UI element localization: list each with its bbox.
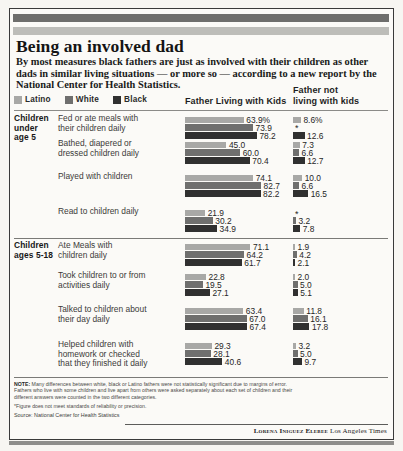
bar-white [185, 315, 247, 321]
bar-black [293, 157, 305, 163]
row-label: Played with children [58, 172, 184, 182]
column-header-not-living-line1: Father not [293, 85, 359, 96]
bar-latino [185, 210, 205, 216]
bar-latino [185, 142, 226, 148]
bar-value-label: 67.4 [250, 324, 266, 330]
row-label: Took children to or fromactivities daily [58, 271, 184, 290]
legend-item-latino: Latino [14, 95, 51, 104]
row-label: Fed or ate meals withtheir children dail… [58, 114, 184, 133]
bar-latino [293, 343, 296, 349]
masthead-dark-bar [13, 14, 389, 22]
row-label-line-2: that they finished it daily [58, 359, 184, 369]
bar-black [293, 225, 300, 231]
bar-black [185, 157, 250, 163]
group-label-1: Childrenages 5-18 [14, 241, 53, 260]
row-label-line-1: children daily [58, 251, 184, 261]
bar-asterisk: * [295, 125, 299, 131]
row-label: Read to children daily [58, 207, 184, 217]
bar-white [185, 149, 240, 155]
row-label-line-1: their day daily [58, 315, 184, 325]
bar-latino [185, 308, 243, 314]
divider-top [14, 110, 388, 111]
bar-value-label: 34.9 [220, 226, 236, 232]
column-header-not-living-with-kids: Father not living with kids [293, 85, 359, 106]
bar-value-label: 27.1 [212, 290, 228, 296]
bar-latino [293, 274, 295, 280]
credit-org: Los Angeles Times [330, 427, 387, 435]
bar-value-label: 70.4 [252, 158, 268, 164]
legend-label-black: Black [124, 95, 147, 104]
note-label: NOTE: [14, 381, 30, 387]
source-line: Source: National Center for Health Stati… [14, 412, 119, 418]
page-title: Being an involved dad [16, 36, 184, 57]
bar-black [185, 358, 222, 364]
bar-latino [293, 244, 295, 250]
divider-credit [125, 424, 388, 425]
row-label-line-1: their children daily [58, 124, 184, 134]
divider-note [14, 377, 388, 378]
legend-label-white: White [76, 95, 99, 104]
bar-value-label: 40.6 [225, 359, 241, 365]
bar-white [293, 251, 297, 257]
bar-black [185, 132, 257, 138]
divider-groups [14, 238, 388, 239]
row-label-line-0: Played with children [58, 172, 184, 182]
bar-value-label: 12.6 [307, 133, 323, 139]
column-header-not-living-line2: living with kids [293, 96, 359, 107]
bar-black [293, 323, 309, 329]
bar-value-label: 9.7 [304, 359, 316, 365]
bar-value-label: 61.7 [244, 260, 260, 266]
bar-value-label: 5.1 [300, 290, 312, 296]
group-label-line-2: age 5 [14, 133, 49, 143]
bar-value-label: 12.7 [307, 158, 323, 164]
note-block: NOTE: Many differences between white, bl… [14, 381, 386, 400]
bar-white [185, 182, 261, 188]
row-label: Helped children withhomework or checkedt… [58, 340, 184, 369]
group-label-0: Childrenunderage 5 [14, 114, 49, 143]
bar-value-label: 2.1 [298, 260, 310, 266]
bar-latino [185, 175, 253, 181]
bar-value-label: 8.6% [303, 117, 322, 123]
bar-black [293, 190, 308, 196]
row-label: Ate Meals withchildren daily [58, 241, 184, 260]
bar-latino [185, 117, 244, 123]
bar-white [185, 350, 211, 356]
bar-value-label: 78.2 [259, 133, 275, 139]
infographic-page: Being an involved dad By most measures b… [0, 0, 403, 451]
bar-black [185, 289, 210, 295]
note-line-3: different answers were counted in the tw… [14, 394, 386, 400]
footnote-star: *Figure does not meet standards of relia… [14, 403, 146, 409]
credit-line: Lorena Iniguez Elebee Los Angeles Times [254, 427, 387, 435]
bottom-edge-bar [9, 441, 394, 445]
bar-black [293, 358, 302, 364]
bar-latino [185, 343, 212, 349]
note-text-1: Many differences between white, black or… [32, 381, 287, 387]
bar-latino [293, 117, 301, 123]
legend-item-black: Black [113, 95, 147, 104]
legend-swatch-white-icon [65, 96, 73, 104]
bar-black [293, 259, 295, 265]
bar-value-label: 82.2 [263, 191, 279, 197]
bar-white [185, 217, 213, 223]
legend-label-latino: Latino [25, 95, 51, 104]
bar-black [185, 259, 242, 265]
bar-white [185, 281, 203, 287]
bar-black [185, 225, 217, 231]
bar-white [293, 149, 299, 155]
legend-swatch-black-icon [113, 96, 121, 104]
bar-white [293, 315, 308, 321]
bar-black [293, 132, 305, 138]
row-label-line-1: activities daily [58, 281, 184, 291]
credit-author: Lorena Iniguez Elebee [254, 427, 328, 435]
row-label-line-0: Read to children daily [58, 207, 184, 217]
bar-latino [293, 308, 304, 314]
bar-latino [293, 142, 300, 148]
bar-white [293, 182, 299, 188]
bar-white [293, 281, 298, 287]
row-label: Bathed, diapered ordressed children dail… [58, 139, 184, 158]
bar-black [185, 323, 247, 329]
legend-item-white: White [65, 95, 99, 104]
bar-white [185, 124, 253, 130]
bar-latino [185, 244, 250, 250]
bar-white [185, 251, 244, 257]
